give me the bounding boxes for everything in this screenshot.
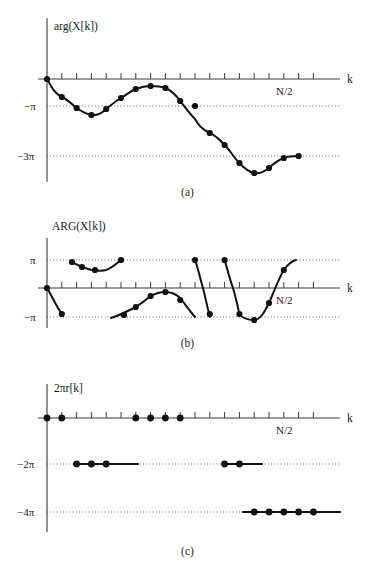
panel-c-x-axis-label: k	[347, 412, 353, 424]
phase-unwrapping-figure: arg(X[k]) k N/2 −π −3π (a)	[0, 0, 375, 566]
panel-c-x-ticks	[62, 412, 314, 418]
panel-a-data-points	[44, 76, 302, 176]
panel-a-plot: arg(X[k]) k N/2 −π −3π	[0, 0, 375, 200]
panel-a-y-axis-label: arg(X[k])	[54, 20, 98, 33]
panel-b-caption: (b)	[0, 337, 375, 349]
panel-b-ytick-minus-pi: −π	[24, 311, 36, 323]
panel-c-ytick-minus-2pi: −2π	[17, 458, 35, 470]
panel-a-x-axis-label: k	[347, 73, 353, 85]
panel-b-ytick-plus-pi: π	[30, 254, 36, 266]
panel-c-n-over-2-label: N/2	[276, 424, 293, 436]
panel-b-plot: ARG(X[k]) k N/2 π −π	[0, 200, 375, 360]
panel-a-n-over-2-label: N/2	[276, 85, 293, 97]
panel-c-correction-sequence: 2πr[k] k N/2 −2π −4π (c)	[0, 360, 375, 566]
panel-b-n-over-2-label: N/2	[276, 294, 293, 306]
panel-b-data-points	[44, 257, 287, 323]
panel-b-x-axis-label: k	[347, 282, 353, 294]
panel-b-wrapped-phase: ARG(X[k]) k N/2 π −π (b)	[0, 200, 375, 360]
panel-c-y-axis-label: 2πr[k]	[54, 382, 83, 394]
panel-a-unwrapped-phase: arg(X[k]) k N/2 −π −3π (a)	[0, 0, 375, 200]
panel-b-branch-1	[47, 288, 62, 314]
panel-b-y-axis-label: ARG(X[k])	[52, 220, 106, 233]
panel-c-ytick-minus-4pi: −4π	[17, 506, 35, 518]
panel-a-caption: (a)	[0, 186, 375, 198]
panel-c-run-segments	[74, 464, 340, 512]
panel-a-x-ticks	[62, 73, 314, 79]
panel-a-curve	[47, 79, 299, 173]
panel-c-caption: (c)	[0, 545, 375, 557]
panel-a-ytick-minus-pi: −π	[24, 100, 36, 112]
panel-a-ytick-minus-3pi: −3π	[17, 150, 35, 162]
panel-c-plot: 2πr[k] k N/2 −2π −4π	[0, 360, 375, 566]
